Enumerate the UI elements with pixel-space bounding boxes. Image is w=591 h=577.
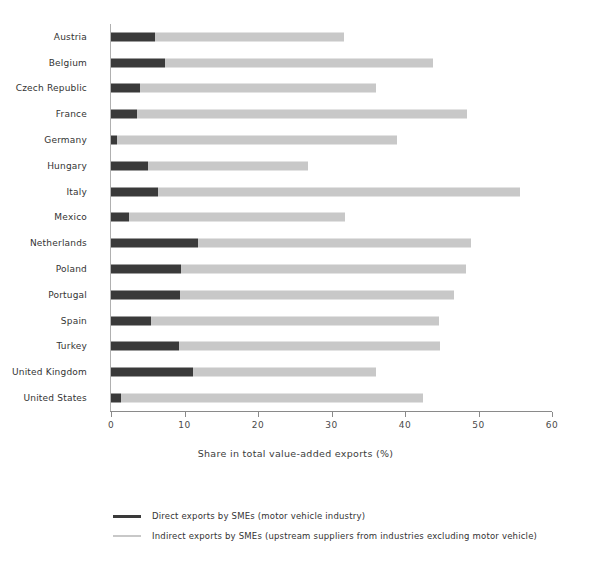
- legend-item[interactable]: Indirect exports by SMEs (upstream suppl…: [113, 526, 583, 546]
- bar-segment-direct: [111, 58, 165, 67]
- legend-swatch-icon: [113, 515, 141, 518]
- chart-row: France: [0, 101, 591, 127]
- category-label: United Kingdom: [12, 367, 87, 377]
- category-label: Turkey: [57, 341, 88, 351]
- stacked-bar: [111, 110, 552, 119]
- x-tick: [405, 412, 406, 417]
- legend-label: Direct exports by SMEs (motor vehicle in…: [152, 511, 365, 521]
- stacked-bar: [111, 187, 552, 196]
- category-label: Netherlands: [30, 238, 87, 248]
- bar-segment-direct: [111, 239, 198, 248]
- bar-segment-indirect: [140, 84, 376, 93]
- stacked-bar: [111, 394, 552, 403]
- stacked-bar: [111, 32, 552, 41]
- category-label: United States: [23, 393, 87, 403]
- stacked-bar: [111, 342, 552, 351]
- bar-segment-indirect: [121, 394, 422, 403]
- x-tick: [479, 412, 480, 417]
- bar-segment-direct: [111, 394, 121, 403]
- stacked-bar: [111, 368, 552, 377]
- category-label: Germany: [44, 135, 87, 145]
- bar-segment-indirect: [180, 290, 454, 299]
- bar-segment-direct: [111, 110, 137, 119]
- stacked-bar: [111, 213, 552, 222]
- chart-row: Austria: [0, 24, 591, 50]
- category-label: Spain: [61, 316, 87, 326]
- stacked-bar: [111, 316, 552, 325]
- x-tick-label: 10: [178, 420, 190, 430]
- category-label: Hungary: [47, 161, 87, 171]
- chart-row: Hungary: [0, 153, 591, 179]
- category-label: France: [56, 109, 87, 119]
- stacked-bar: [111, 161, 552, 170]
- bar-segment-indirect: [158, 187, 520, 196]
- bar-segment-indirect: [137, 110, 467, 119]
- x-tick-label: 50: [472, 420, 484, 430]
- bar-segment-indirect: [198, 239, 471, 248]
- bar-segment-indirect: [165, 58, 433, 67]
- bar-segment-direct: [111, 265, 181, 274]
- bar-segment-direct: [111, 161, 148, 170]
- category-label: Italy: [66, 187, 87, 197]
- stacked-bar: [111, 265, 552, 274]
- category-label: Czech Republic: [16, 83, 87, 93]
- chart-row: Poland: [0, 256, 591, 282]
- chart-row: Spain: [0, 308, 591, 334]
- chart-row: Turkey: [0, 334, 591, 360]
- bar-chart: AustriaBelgiumCzech RepublicFranceGerman…: [0, 0, 591, 577]
- legend-label: Indirect exports by SMEs (upstream suppl…: [152, 531, 537, 541]
- bar-segment-indirect: [181, 265, 466, 274]
- bar-segment-indirect: [179, 342, 441, 351]
- category-label: Poland: [56, 264, 87, 274]
- bar-segment-indirect: [148, 161, 307, 170]
- bar-segment-direct: [111, 84, 140, 93]
- bar-segment-direct: [111, 32, 155, 41]
- bar-segment-direct: [111, 342, 179, 351]
- chart-row: Portugal: [0, 282, 591, 308]
- x-tick: [111, 412, 112, 417]
- category-label: Austria: [54, 32, 87, 42]
- x-tick-label: 40: [399, 420, 411, 430]
- bar-segment-direct: [111, 290, 180, 299]
- x-tick-label: 60: [546, 420, 558, 430]
- stacked-bar: [111, 290, 552, 299]
- chart-row: United States: [0, 385, 591, 411]
- bar-segment-indirect: [155, 32, 344, 41]
- stacked-bar: [111, 239, 552, 248]
- x-tick-label: 30: [325, 420, 337, 430]
- bar-segment-indirect: [117, 136, 397, 145]
- x-tick: [258, 412, 259, 417]
- x-tick: [185, 412, 186, 417]
- chart-row: United Kingdom: [0, 359, 591, 385]
- bar-segment-direct: [111, 187, 158, 196]
- chart-row: Netherlands: [0, 230, 591, 256]
- chart-row: Belgium: [0, 50, 591, 76]
- bar-segment-indirect: [151, 316, 439, 325]
- x-tick: [332, 412, 333, 417]
- category-label: Portugal: [48, 290, 87, 300]
- x-axis-title: Share in total value-added exports (%): [0, 448, 591, 459]
- bar-segment-direct: [111, 368, 193, 377]
- x-tick-label: 0: [108, 420, 114, 430]
- chart-row: Mexico: [0, 205, 591, 231]
- x-tick: [552, 412, 553, 417]
- chart-row: Germany: [0, 127, 591, 153]
- stacked-bar: [111, 84, 552, 93]
- category-label: Mexico: [54, 212, 87, 222]
- chart-legend: Direct exports by SMEs (motor vehicle in…: [113, 506, 583, 546]
- legend-swatch-icon: [113, 535, 141, 537]
- bar-segment-indirect: [193, 368, 375, 377]
- category-label: Belgium: [49, 58, 87, 68]
- bar-segment-direct: [111, 213, 129, 222]
- legend-item[interactable]: Direct exports by SMEs (motor vehicle in…: [113, 506, 583, 526]
- stacked-bar: [111, 58, 552, 67]
- x-tick-label: 20: [252, 420, 264, 430]
- chart-row: Italy: [0, 179, 591, 205]
- bar-segment-direct: [111, 316, 151, 325]
- bar-segment-indirect: [129, 213, 345, 222]
- chart-row: Czech Republic: [0, 76, 591, 102]
- stacked-bar: [111, 136, 552, 145]
